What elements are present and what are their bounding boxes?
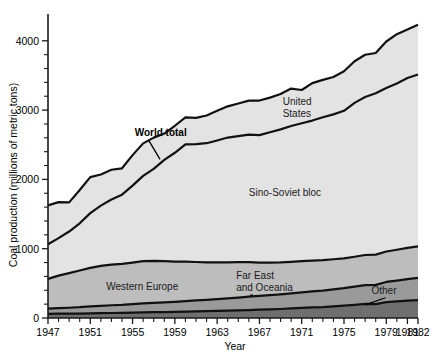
annotation-united-states: UnitedStates — [283, 96, 312, 119]
annotation-other: Other — [371, 285, 397, 296]
x-tick-label: 1959 — [163, 326, 187, 338]
x-tick-label: 1947 — [36, 326, 60, 338]
x-axis-title: Year — [224, 340, 246, 352]
x-tick-label: 1955 — [121, 326, 145, 338]
chart-container: 01000200030004000 1947195119551959196319… — [0, 0, 440, 360]
y-tick-label: 0 — [33, 312, 39, 324]
y-tick-label: 4000 — [16, 35, 40, 47]
x-tick-label: 1971 — [290, 326, 314, 338]
annotation-western-europe: Western Europe — [106, 281, 179, 292]
y-axis-title: Coal production (millions of metric tons… — [7, 83, 19, 267]
y-tick-label: 3000 — [16, 104, 40, 116]
x-tick-label: 1963 — [205, 326, 229, 338]
x-tick-label: 1967 — [248, 326, 272, 338]
x-tick-label: 1982 — [406, 326, 430, 338]
x-tick-label: 1951 — [79, 326, 103, 338]
annotation-sino-soviet-bloc: Sino-Soviet bloc — [249, 187, 321, 198]
annotation-world-total: World total — [135, 127, 187, 138]
x-tick-label: 1975 — [332, 326, 356, 338]
y-tick-label: 2000 — [16, 173, 40, 185]
x-tick-label: 1979 — [375, 326, 399, 338]
coal-production-stacked-area-chart: 01000200030004000 1947195119551959196319… — [0, 0, 440, 360]
y-tick-label: 1000 — [16, 243, 40, 255]
